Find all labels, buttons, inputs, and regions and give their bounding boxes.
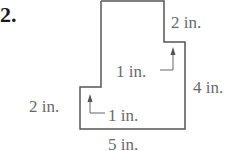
- label-top-right-step: 2 in.: [171, 14, 201, 31]
- label-left-side: 2 in.: [29, 98, 59, 115]
- label-right-side: 4 in.: [193, 79, 223, 96]
- label-inner-left-arrow: 1 in.: [108, 107, 138, 124]
- label-inner-right-arrow: 1 in.: [116, 63, 146, 80]
- label-bottom: 5 in.: [108, 136, 138, 151]
- inner-right-arrow: [160, 47, 176, 70]
- inner-left-arrow: [88, 94, 106, 113]
